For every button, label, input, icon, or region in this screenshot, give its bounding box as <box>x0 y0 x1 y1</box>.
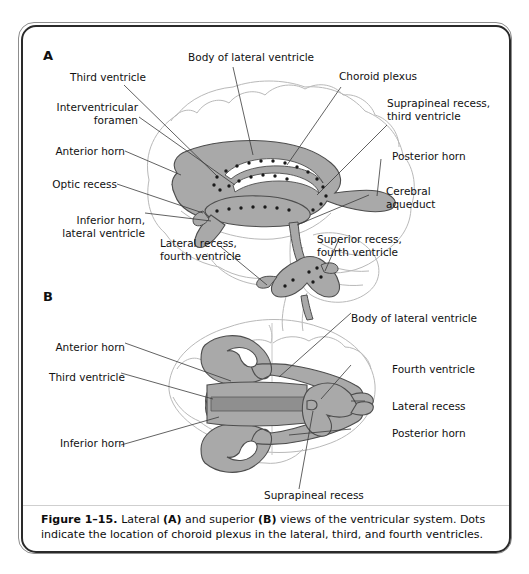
panel-b-illustration <box>121 313 375 489</box>
label-optic-recess-a: Optic recess <box>42 178 117 191</box>
label-suprapineal-recess-b: Suprapineal recess <box>264 489 364 502</box>
caption-panel-b-ref: (B) <box>258 513 276 526</box>
caption-lead: Lateral <box>121 513 163 526</box>
label-posterior-horn-a: Posterior horn <box>392 150 466 163</box>
panel-letter-b: B <box>43 289 53 304</box>
label-suprapineal-recess-third-ventricle-a: Suprapineal recess, third ventricle <box>387 97 490 122</box>
label-inferior-horn-b: Inferior horn <box>42 437 125 450</box>
figure-caption: Figure 1–15. Lateral (A) and superior (B… <box>41 513 491 542</box>
label-third-ventricle-b: Third ventricle <box>42 371 125 384</box>
label-interventricular-foramen-a: Interventricular foramen <box>42 101 138 126</box>
caption-mid: and superior <box>182 513 258 526</box>
label-posterior-horn-b: Posterior horn <box>392 427 466 440</box>
label-anterior-horn-b: Anterior horn <box>42 341 125 354</box>
panel-a-illustration <box>117 67 414 331</box>
leader-third-ventricle-b <box>121 373 213 399</box>
label-third-ventricle-a: Third ventricle <box>58 71 146 84</box>
label-choroid-plexus-a: Choroid plexus <box>339 70 417 83</box>
label-lateral-recess-fourth-ventricle-a: Lateral recess, fourth ventricle <box>160 237 241 262</box>
caption-panel-a-ref: (A) <box>163 513 182 526</box>
label-superior-recess-fourth-ventricle-a: Superior recess, fourth ventricle <box>317 233 402 258</box>
figure-number: Figure 1–15. <box>41 513 121 526</box>
panel-letter-a: A <box>43 48 53 63</box>
leader-posterior-horn-a <box>377 159 381 196</box>
leader-anterior-horn-a <box>125 151 181 175</box>
leader-body-of-lateral-ventricle-b <box>279 313 351 377</box>
figure-page: A B Third ventricle Body of lateral vent… <box>0 0 529 574</box>
label-fourth-ventricle-b: Fourth ventricle <box>392 363 475 376</box>
ventricle-system-lateral <box>172 140 395 320</box>
label-lateral-recess-b: Lateral recess <box>392 400 466 413</box>
label-body-of-lateral-ventricle-a: Body of lateral ventricle <box>188 51 314 64</box>
label-anterior-horn-a: Anterior horn <box>42 145 125 158</box>
label-body-of-lateral-ventricle-b: Body of lateral ventricle <box>351 312 477 325</box>
caption-divider <box>23 505 509 506</box>
label-inferior-horn-lateral-ventricle-a: Inferior horn, lateral ventricle <box>42 214 145 239</box>
label-cerebral-aqueduct-a: Cerebral aqueduct <box>386 185 435 210</box>
